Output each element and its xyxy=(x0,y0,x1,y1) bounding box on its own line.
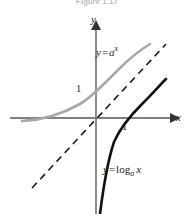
logarithmic-curve-label: y=loga x xyxy=(103,163,141,178)
y-axis-label: y xyxy=(91,13,96,25)
logarithmic-curve xyxy=(100,79,166,214)
log-label-fn: log xyxy=(116,163,130,175)
log-label-eq: = xyxy=(108,163,116,175)
figure-container: Figure 1.17 y=ax y=loga x x y 1 1 xyxy=(0,0,194,214)
exponential-label-exponent: x xyxy=(115,44,119,53)
y-axis-tick-label-1: 1 xyxy=(76,83,81,94)
log-label-base: a xyxy=(130,169,134,178)
x-axis-tick-label-1: 1 xyxy=(122,121,127,132)
x-axis-label: x xyxy=(176,111,181,123)
log-label-arg: x xyxy=(136,163,141,175)
plot-canvas xyxy=(0,0,194,214)
exponential-label-eq: = xyxy=(101,46,109,58)
x-axis xyxy=(10,113,180,123)
exponential-curve-label: y=ax xyxy=(96,44,118,58)
